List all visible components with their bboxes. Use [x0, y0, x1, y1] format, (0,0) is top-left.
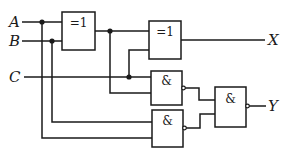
inversion-bubble-top — [182, 86, 186, 90]
wire-c-to-xor — [129, 50, 149, 77]
junction-b — [49, 38, 54, 43]
input-label-c: C — [9, 70, 20, 85]
gate-symbol-nand-top: & — [151, 75, 182, 87]
wire-g4-out — [186, 114, 215, 128]
junction-c — [126, 74, 131, 79]
inversion-bubble-final — [246, 104, 250, 108]
gate-symbol-xor-2: =1 — [149, 26, 181, 38]
wire-g3-out — [185, 88, 215, 100]
wire-b-branch — [52, 41, 152, 122]
inversion-bubble-bottom — [183, 126, 187, 130]
circuit-wiring — [0, 0, 287, 158]
gate-symbol-xor-1: =1 — [62, 17, 95, 29]
input-label-a: A — [9, 15, 20, 30]
gate-symbol-nand-bottom: & — [152, 115, 183, 127]
logic-circuit-diagram: A B C X Y =1 =1 & & & — [0, 0, 287, 158]
input-label-b: B — [9, 34, 20, 49]
wire-g1-to-nand — [110, 31, 151, 93]
gate-symbol-nand-final: & — [215, 93, 246, 105]
output-label-y: Y — [268, 99, 278, 114]
junction-a — [39, 19, 44, 24]
wire-a-branch — [42, 22, 152, 138]
output-label-x: X — [268, 33, 279, 48]
